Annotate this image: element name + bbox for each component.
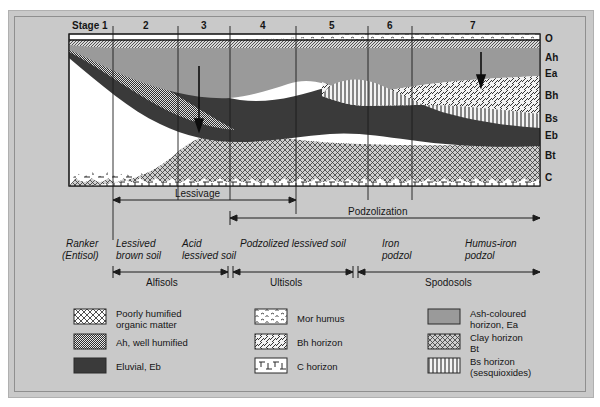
legend-text-bs-line1: Bs horizon <box>470 356 515 367</box>
legend-text-ah: Ah, well humified <box>116 337 188 348</box>
legend-swatch-c-horizon <box>255 358 287 373</box>
figure-root: Stage 1 2 3 4 5 6 7 O Ah Ea Bh Bs Eb Bt … <box>0 0 600 407</box>
legend-swatch-ash-coloured-ea <box>428 309 460 324</box>
legend-text-mor-humus: Mor humus <box>297 313 345 324</box>
legend-swatch-ah-humified <box>74 334 106 349</box>
legend-swatch-eluvial-eb <box>74 358 106 373</box>
legend-text-ash-line1: Ash-coloured <box>470 308 526 319</box>
legend-swatch-bs-sesquioxides <box>428 358 460 373</box>
legend-text-clay-line2: Bt <box>470 343 479 354</box>
legend-text-bs-line2: (sesquioxides) <box>470 367 531 378</box>
legend-text-bh: Bh horizon <box>297 337 342 348</box>
legend-text-poorly-line1: Poorly humified <box>116 308 181 319</box>
legend-swatch-bh-horizon <box>255 334 287 349</box>
legend-swatch-clay-bt <box>428 334 460 349</box>
legend-text-poorly-line2: organic matter <box>116 319 177 330</box>
legend-text-eluvial: Eluvial, Eb <box>116 361 161 372</box>
legend-swatch-mor-humus <box>255 309 287 324</box>
legend-text-c: C horizon <box>297 361 338 372</box>
legend-text-clay-line1: Clay horizon <box>470 332 523 343</box>
legend-swatch-poorly-humified <box>74 309 106 324</box>
legend-text-ash-line2: horizon, Ea <box>470 319 518 330</box>
